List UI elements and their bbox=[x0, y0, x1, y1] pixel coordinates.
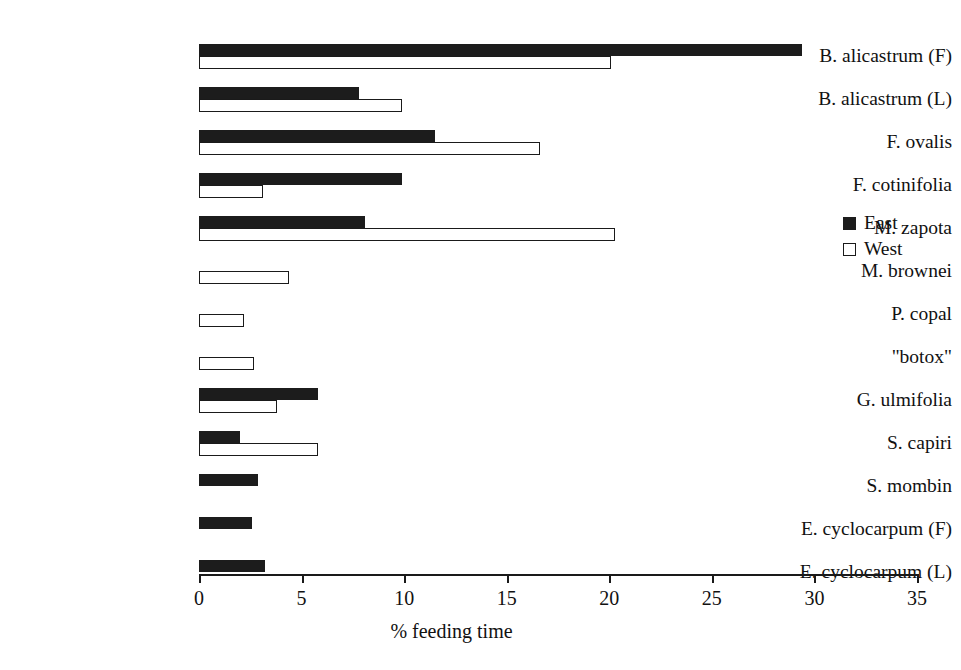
bar-west bbox=[199, 142, 540, 155]
bar-west bbox=[199, 271, 289, 284]
category-label: F. cotinifolia bbox=[765, 175, 961, 195]
category-label: M. brownei bbox=[765, 261, 961, 281]
bar-east bbox=[199, 173, 402, 185]
bar-east bbox=[199, 431, 240, 443]
bar-west bbox=[199, 99, 402, 112]
x-tick-label: 30 bbox=[784, 586, 844, 610]
x-tick-label: 35 bbox=[887, 586, 947, 610]
bar-east bbox=[199, 44, 802, 56]
filled-square-icon bbox=[843, 217, 856, 230]
x-tick bbox=[814, 574, 816, 583]
legend-label-west: West bbox=[864, 239, 903, 259]
category-label: S. mombin bbox=[765, 476, 961, 496]
x-tick bbox=[507, 574, 509, 583]
x-tick bbox=[199, 574, 201, 583]
category-label: E. cyclocarpum (F) bbox=[765, 519, 961, 539]
x-tick-label: 0 bbox=[169, 586, 229, 610]
bar-east bbox=[199, 130, 435, 142]
bar-west bbox=[199, 185, 263, 198]
category-label: B. alicastrum (F) bbox=[765, 46, 961, 66]
bar-east bbox=[199, 474, 258, 486]
bar-west bbox=[199, 228, 615, 241]
category-label: S. capiri bbox=[765, 433, 961, 453]
x-tick-label: 15 bbox=[477, 586, 537, 610]
bar-west bbox=[199, 357, 254, 370]
bar-west bbox=[199, 400, 277, 413]
bar-west bbox=[199, 443, 318, 456]
category-label: G. ulmifolia bbox=[765, 390, 961, 410]
x-tick-label: 5 bbox=[272, 586, 332, 610]
legend-label-east: East bbox=[864, 213, 898, 233]
x-tick bbox=[609, 574, 611, 583]
x-tick bbox=[404, 574, 406, 583]
x-tick-label: 20 bbox=[579, 586, 639, 610]
x-tick-label: 10 bbox=[374, 586, 434, 610]
bar-east bbox=[199, 517, 252, 529]
bar-east bbox=[199, 560, 265, 572]
x-tick-label: 25 bbox=[682, 586, 742, 610]
x-tick bbox=[302, 574, 304, 583]
x-axis-title-text: % feeding time bbox=[390, 620, 512, 643]
bar-west bbox=[199, 314, 244, 327]
bar-east bbox=[199, 87, 359, 99]
category-label: "botox" bbox=[765, 347, 961, 367]
open-square-icon bbox=[843, 243, 856, 256]
category-label: F. ovalis bbox=[765, 132, 961, 152]
x-tick bbox=[712, 574, 714, 583]
bar-east bbox=[199, 388, 318, 400]
bar-west bbox=[199, 56, 611, 69]
x-tick bbox=[917, 574, 919, 583]
legend: East West bbox=[843, 210, 961, 262]
category-label: E. cyclocarpum (L) bbox=[765, 562, 961, 582]
x-axis-line bbox=[199, 574, 918, 576]
bar-chart: B. alicastrum (F)B. alicastrum (L)F. ova… bbox=[0, 0, 961, 670]
legend-item-east: East bbox=[843, 210, 961, 236]
bar-east bbox=[199, 216, 365, 228]
x-axis-title: % feeding time bbox=[0, 620, 961, 643]
legend-item-west: West bbox=[843, 236, 961, 262]
category-label: B. alicastrum (L) bbox=[765, 89, 961, 109]
category-label: P. copal bbox=[765, 304, 961, 324]
